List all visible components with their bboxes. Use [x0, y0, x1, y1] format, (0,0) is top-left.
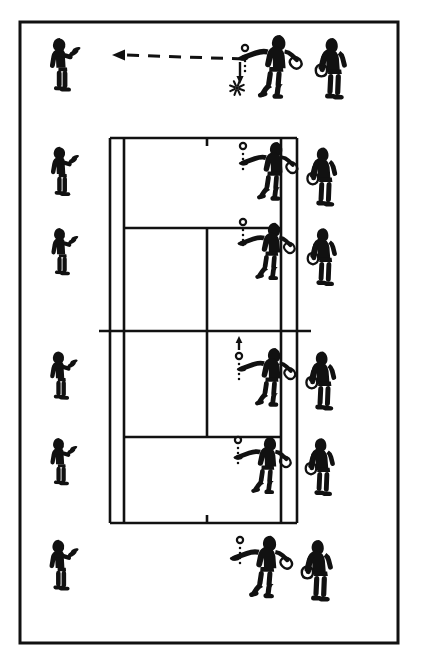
tennis-drill-diagram: [0, 0, 421, 665]
figure-page: [0, 0, 421, 665]
